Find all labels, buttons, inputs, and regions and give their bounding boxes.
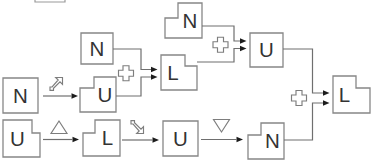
join-mid-from-n — [113, 49, 158, 72]
box-mid-l-label: L — [167, 61, 178, 84]
box-bottomright-n-label: N — [265, 129, 280, 152]
triangle-down-icon-shape — [214, 120, 230, 133]
join-mid-from-n-arrowhead — [151, 67, 158, 72]
merge-plus-icon-top-shape — [213, 37, 228, 52]
join-right-from-n — [284, 100, 330, 140]
box-mid-n: N — [81, 33, 113, 64]
box-bottomright-n: N — [248, 123, 284, 159]
join-right-from-u-line — [283, 49, 323, 93]
diagonal-arrow-se-icon — [131, 121, 144, 134]
join-right-from-n-line — [284, 103, 323, 140]
arrow-leftn-to-midu — [43, 93, 78, 98]
join-top-from-n-arrowhead — [240, 38, 247, 43]
triangle-up-icon — [51, 121, 67, 134]
box-top-n: N — [165, 3, 202, 38]
join-mid-from-u — [116, 74, 158, 96]
join-top-from-l-arrowhead — [240, 46, 247, 51]
box-bottom-u: U — [163, 121, 198, 156]
join-top-from-n — [202, 26, 247, 44]
arrow-bottomu-to-brn — [201, 137, 243, 142]
join-right-from-n-arrowhead — [323, 100, 330, 105]
box-bottom-l: L — [83, 120, 120, 156]
box-bottomleft-u: U — [3, 120, 40, 157]
merge-plus-icon-right-shape — [292, 91, 307, 106]
join-mid-from-n-line — [113, 49, 151, 70]
box-mid-n-label: N — [90, 37, 105, 60]
box-right-l-label: L — [339, 83, 350, 106]
box-bottom-u-label: U — [173, 127, 188, 150]
join-right-from-u — [283, 49, 330, 96]
merge-plus-icon-mid — [119, 66, 134, 81]
arrow-leftn-to-midu-arrowhead — [72, 93, 79, 98]
join-right-from-u-arrowhead — [323, 90, 330, 95]
join-mid-from-u-line — [116, 77, 151, 96]
diagonal-arrow-ne-icon-shape — [50, 78, 63, 91]
merge-plus-icon-mid-shape — [119, 66, 134, 81]
box-bottomleft-u-label: U — [10, 127, 25, 150]
box-mid-u-label: U — [98, 83, 113, 106]
triangle-up-icon-shape — [51, 121, 67, 134]
diagram: NUNLNUULUNL — [0, 0, 374, 166]
box-mid-u: U — [80, 77, 116, 112]
merge-plus-icon-top — [213, 37, 228, 52]
box-left-n: N — [3, 78, 38, 113]
box-topright-u: U — [250, 33, 283, 67]
box-bottom-l-label: L — [102, 126, 113, 149]
arrow-blu-to-bottoml-arrowhead — [73, 137, 80, 142]
arrow-blu-to-bottoml — [43, 137, 79, 142]
box-topright-u-label: U — [259, 38, 274, 61]
diagonal-arrow-ne-icon — [50, 78, 63, 91]
diagram-svg: NUNLNUULUNL — [0, 0, 374, 166]
clipped-box-bottom-edge-line — [35, 0, 65, 2]
merge-plus-icon-right — [292, 91, 307, 106]
clipped-box-bottom-edge — [35, 0, 65, 2]
join-mid-from-u-arrowhead — [151, 74, 158, 79]
box-top-n-label: N — [183, 9, 198, 32]
box-mid-l: L — [161, 55, 197, 90]
box-left-n-label: N — [13, 84, 28, 107]
box-right-l: L — [333, 76, 370, 113]
triangle-down-icon — [214, 120, 230, 133]
arrow-bottoml-to-bottomu — [122, 137, 159, 142]
diagonal-arrow-se-icon-shape — [131, 121, 144, 134]
arrow-bottomu-to-brn-arrowhead — [237, 137, 244, 142]
arrow-bottoml-to-bottomu-arrowhead — [153, 137, 160, 142]
